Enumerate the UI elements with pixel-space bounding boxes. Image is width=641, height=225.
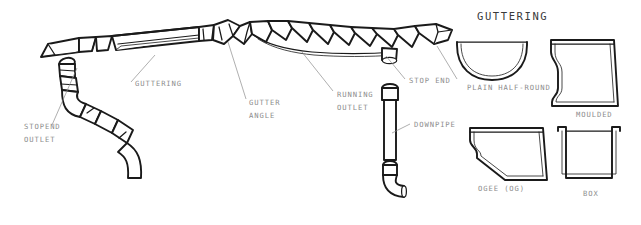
label-stopend-outlet-line2: OUTLET <box>24 135 55 144</box>
downpipe-socket-collar <box>382 88 398 100</box>
label-gutter-angle-line2: ANGLE <box>249 111 275 120</box>
profile-plain-half-round: PLAIN HALF-ROUND <box>457 42 551 92</box>
downpipe-shoe <box>383 175 404 197</box>
leader-guttering <box>131 55 155 82</box>
label-gutter-angle-line1: GUTTER <box>249 98 280 107</box>
label-guttering: GUTTERING <box>135 79 182 88</box>
downpipe-shoe-mouth <box>402 186 407 197</box>
label-plain-half-round: PLAIN HALF-ROUND <box>467 83 551 92</box>
profile-ogee: OGEE (OG) <box>470 128 547 193</box>
moulded-outer <box>551 40 618 106</box>
label-running-outlet-line2: OUTLET <box>337 103 368 112</box>
label-moulded: MOULDED <box>576 110 613 119</box>
label-ogee: OGEE (OG) <box>478 184 525 193</box>
downpipe-chain-left <box>58 56 141 178</box>
gutter-run-left <box>41 25 214 57</box>
label-downpipe: DOWNPIPE <box>414 120 456 129</box>
label-stop-end: STOP END <box>409 76 451 85</box>
box-outer <box>558 127 620 178</box>
stopend-outlet-collar <box>96 36 112 51</box>
leader-gutter-angle <box>228 42 246 99</box>
downpipe-shaft <box>384 100 396 160</box>
downpipe-vertical <box>382 84 406 197</box>
ogee-outer <box>470 128 547 180</box>
label-box: BOX <box>583 189 599 198</box>
leader-running-outlet <box>302 52 333 91</box>
leader-stop-end-b <box>437 46 457 79</box>
label-stopend-outlet-line1: STOPEND <box>24 122 61 131</box>
gutter-run-right <box>250 21 452 64</box>
label-running-outlet-line1: RUNNING <box>337 90 374 99</box>
downpipe-collar-bottom <box>383 165 397 175</box>
gutter-angle-section <box>213 20 252 44</box>
page-title: GUTTERING <box>477 10 548 22</box>
gutter-union-left <box>199 25 214 41</box>
half-round-outer <box>457 42 527 80</box>
profile-moulded: MOULDED <box>551 40 618 119</box>
gutter-seg-2 <box>268 21 292 40</box>
guttering-illustration: STOPEND OUTLET GUTTERING GUTTER ANGLE RU… <box>0 0 641 225</box>
profile-box: BOX <box>558 127 620 198</box>
downpipe-shoe-left <box>118 143 141 178</box>
guttering-diagram-sheet: STOPEND OUTLET GUTTERING GUTTER ANGLE RU… <box>0 0 641 225</box>
